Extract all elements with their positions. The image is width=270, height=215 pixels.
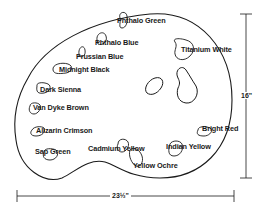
label-indian-yellow: Indian Yellow — [166, 143, 211, 150]
label-yellow-ochre: Yellow Ochre — [133, 162, 178, 169]
label-alizarin-crimson: Alizarin Crimson — [36, 127, 92, 134]
thumb-hole-small — [146, 78, 163, 95]
label-titanium-white: Titanium White — [181, 46, 232, 53]
thumb-hole-kidney — [177, 68, 197, 104]
label-sap-green: Sap Green — [35, 148, 71, 155]
label-cadmium-yellow: Cadmium Yellow — [88, 145, 144, 152]
label-phthalo-green: Phthalo Green — [117, 17, 166, 24]
height-dimension-label: 16" — [239, 92, 254, 99]
width-dimension-label: 23½" — [110, 192, 131, 199]
label-dark-sienna: Dark Sienna — [40, 86, 81, 93]
label-midnight-black: Midnight Black — [59, 66, 110, 73]
label-phthalo-blue: Phthalo Blue — [95, 39, 138, 46]
label-bright-red: Bright Red — [202, 125, 238, 132]
label-van-dyke-brown: Van Dyke Brown — [33, 104, 89, 111]
label-prussian-blue: Prussian Blue — [76, 53, 123, 60]
